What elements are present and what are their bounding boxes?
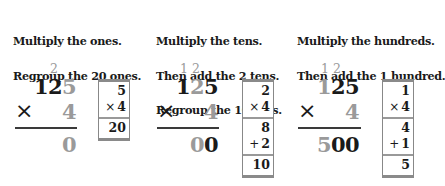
product-ones: 0 — [204, 134, 218, 155]
factor: 5 — [99, 82, 129, 99]
product-tens: 0 — [190, 134, 204, 155]
instruction-line: Multiply the ones. — [13, 36, 141, 48]
product-hundreds: 5 — [317, 134, 331, 155]
add-cell: 8 +2 — [243, 119, 273, 156]
multiplicand-tens: 2 — [48, 76, 62, 97]
times-op: × — [105, 100, 115, 114]
multiplicand-hundreds: 1 — [176, 76, 190, 97]
factor: 2 — [243, 82, 273, 99]
multiply-cell: 2 ×4 — [243, 82, 273, 119]
multiplier: 4 — [204, 101, 218, 122]
plus-op: + — [389, 137, 399, 151]
times-op: × — [389, 100, 399, 114]
add-cell: 4 +1 — [383, 119, 413, 156]
product-tens: 0 — [331, 134, 345, 155]
add-expression: +2 — [243, 136, 273, 152]
result-value: 10 — [243, 156, 273, 173]
multiplier-value: 4 — [261, 99, 270, 114]
add-value: 1 — [401, 136, 410, 151]
result-cell: 5 — [383, 156, 413, 175]
add-expression: +1 — [383, 136, 413, 152]
instruction-line: Multiply the tens. — [156, 36, 282, 48]
multiplicand-ones: 5 — [345, 76, 359, 97]
multiplier: 4 — [345, 101, 359, 122]
result-value: 5 — [383, 156, 413, 173]
step-panel-ones: Multiply the ones. Regroup the 20 ones. … — [0, 0, 145, 186]
result-cell: 20 — [99, 119, 129, 138]
result-value: 20 — [99, 119, 129, 136]
sum-line — [157, 127, 219, 129]
sum-line — [298, 127, 361, 129]
multiplicand-hundreds: 1 — [34, 76, 48, 97]
multiplicand-hundreds: 1 — [317, 76, 331, 97]
factor: 1 — [383, 82, 413, 99]
times-op: × — [249, 100, 259, 114]
times-sign: × — [157, 100, 175, 122]
partial-product: 4 — [383, 119, 413, 136]
result-cell: 10 — [243, 156, 273, 175]
multiplier-value: 4 — [401, 99, 410, 114]
multiplicand-tens: 2 — [331, 76, 345, 97]
multiply-expression: ×4 — [243, 99, 273, 115]
step-panel-hundreds: Multiply the hundreds. Then add the 1 hu… — [290, 0, 440, 186]
sum-line — [15, 127, 77, 129]
multiply-cell: 1 ×4 — [383, 82, 413, 119]
multiply-cell: 5 ×4 — [99, 82, 129, 119]
add-value: 2 — [261, 136, 270, 151]
step-panel-tens: Multiply the tens. Then add the 2 tens. … — [145, 0, 290, 186]
multiplicand-ones: 5 — [204, 76, 218, 97]
product-ones: 0 — [62, 134, 76, 155]
times-sign: × — [298, 100, 316, 122]
multiplicand-tens: 2 — [190, 76, 204, 97]
multiplier: 4 — [62, 101, 76, 122]
product-ones: 0 — [345, 134, 359, 155]
multiply-expression: ×4 — [99, 99, 129, 115]
work-box: 5 ×4 20 — [98, 79, 130, 141]
instruction-line: Multiply the hundreds. — [297, 36, 445, 48]
multiplicand-ones: 5 — [62, 76, 76, 97]
work-box: 1 ×4 4 +1 5 — [382, 79, 414, 178]
times-sign: × — [15, 100, 33, 122]
multiply-expression: ×4 — [383, 99, 413, 115]
plus-op: + — [249, 137, 259, 151]
multiplier-value: 4 — [117, 99, 126, 114]
work-box: 2 ×4 8 +2 10 — [242, 79, 274, 178]
partial-product: 8 — [243, 119, 273, 136]
